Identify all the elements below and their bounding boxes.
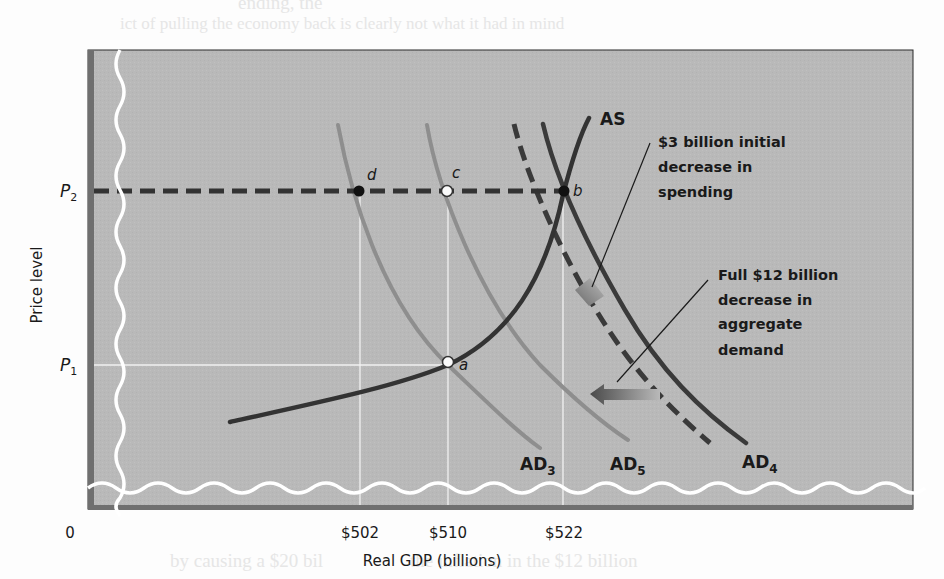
as-label: AS: [600, 109, 625, 129]
point-b-label: b: [573, 182, 583, 200]
point-a-label: a: [459, 356, 468, 374]
x-tick-510: $510: [429, 524, 467, 542]
x-axis-title: Real GDP (billions): [363, 552, 502, 570]
point-d-marker: [354, 186, 365, 197]
ad-as-chart: AS AD3 AD5 AD4 d c b a $3 billion initia…: [0, 0, 944, 579]
x-tick-502: $502: [341, 524, 379, 542]
y-tick-p1: P1: [60, 355, 77, 378]
svg-text:Full $12 billion: Full $12 billion: [718, 267, 838, 283]
svg-text:demand: demand: [718, 342, 784, 358]
y-axis-bar: [88, 50, 94, 509]
x-tick-0: 0: [65, 524, 75, 542]
point-a-marker: [443, 357, 454, 368]
point-b-marker: [559, 186, 570, 197]
svg-text:$3 billion initial: $3 billion initial: [658, 134, 786, 150]
y-axis-title: Price level: [28, 246, 46, 323]
svg-text:decrease in: decrease in: [718, 292, 812, 308]
x-axis-bar: [88, 505, 913, 510]
svg-text:decrease in: decrease in: [658, 159, 752, 175]
point-c-label: c: [452, 164, 461, 182]
svg-text:aggregate: aggregate: [718, 316, 803, 332]
point-c-marker: [442, 186, 453, 197]
y-tick-p2: P2: [60, 181, 77, 204]
x-tick-522: $522: [545, 524, 583, 542]
point-d-label: d: [367, 166, 377, 184]
svg-text:spending: spending: [658, 184, 733, 200]
